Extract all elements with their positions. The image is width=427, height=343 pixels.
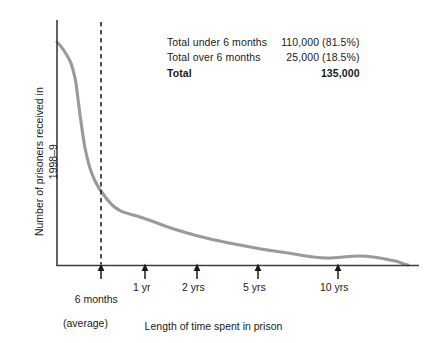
annotation-label-over-6-months: Total over 6 months — [167, 51, 281, 66]
x-tick-label-1-yr: 1 yr — [133, 281, 151, 293]
annotation-row-under-6-months: Total under 6 months 110,000 (81.5%) — [167, 36, 360, 51]
x-tick-label-6-months: 6 months (average) — [63, 281, 118, 343]
annotation-value-over-6-months: 25,000 (18.5%) — [281, 51, 359, 66]
summary-annotation: Total under 6 months 110,000 (81.5%) Tot… — [167, 36, 360, 82]
chart-figure: Total under 6 months 110,000 (81.5%) Tot… — [0, 0, 427, 343]
annotation-label-total: Total — [167, 67, 281, 82]
annotation-value-under-6-months: 110,000 (81.5%) — [281, 36, 359, 51]
x-tick-label-6-months-main: 6 months — [75, 293, 118, 305]
annotation-row-over-6-months: Total over 6 months 25,000 (18.5%) — [167, 51, 360, 66]
x-axis-title: Length of time spent in prison — [0, 320, 427, 332]
y-axis-title: Number of prisoners received in 1998–9 — [33, 72, 60, 252]
annotation-value-total: 135,000 — [281, 67, 359, 82]
annotation-label-under-6-months: Total under 6 months — [167, 36, 281, 51]
x-tick-label-2-yrs: 2 yrs — [182, 281, 205, 293]
annotation-row-total: Total 135,000 — [167, 67, 360, 82]
x-tick-label-5-yrs: 5 yrs — [243, 281, 266, 293]
x-tick-label-10-yrs: 10 yrs — [320, 281, 349, 293]
